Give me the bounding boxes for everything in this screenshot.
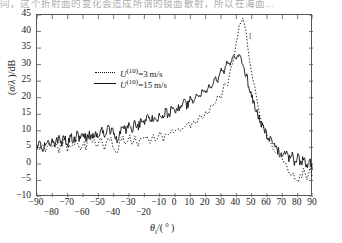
legend-label-u15: U(10)=15 m/s <box>120 78 167 90</box>
x-tick-label: −30 <box>121 198 136 208</box>
y-tick-label: 30 <box>22 59 32 69</box>
y-axis-tick-labels: −10−5051015202530354045 <box>0 14 36 196</box>
y-tick-label: 0 <box>26 158 31 168</box>
y-tick-label: 5 <box>26 142 31 152</box>
y-tick-label: 10 <box>22 125 32 135</box>
x-axis-tick-labels: −90−80−70−60−50−40−30−20−100102030405060… <box>36 197 312 223</box>
x-tick-label: 20 <box>200 198 210 208</box>
y-tick-label: 45 <box>22 9 32 19</box>
legend-swatch-solid-icon <box>94 79 116 88</box>
y-tick-label: −5 <box>21 175 31 185</box>
series-line-dotted <box>37 18 312 182</box>
x-tick-label: 10 <box>185 198 195 208</box>
y-tick-label: 35 <box>22 42 32 52</box>
y-tick-label: 25 <box>22 75 32 85</box>
chart-canvas <box>37 15 313 197</box>
x-tick-label: 60 <box>261 198 271 208</box>
x-tick-label: 40 <box>231 198 241 208</box>
x-tick-label: 80 <box>292 198 302 208</box>
x-tick-label: −80 <box>44 208 59 218</box>
x-axis-title: θi/( ° ) <box>150 222 230 236</box>
y-tick-label: 15 <box>22 109 32 119</box>
x-tick-label: 30 <box>215 198 225 208</box>
x-tick-label: 0 <box>172 198 177 208</box>
y-axis-ticks <box>37 15 313 197</box>
x-tick-label: 90 <box>307 198 317 208</box>
chart-page: 同，这个折射面的变化会造成所谓的镜面散射，所以在海面… (σ/λ )/dB −1… <box>0 0 342 243</box>
x-tick-label: −50 <box>90 198 105 208</box>
legend-item-u3: U(10)=3 m/s <box>94 67 204 78</box>
legend-item-u15: U(10)=15 m/s <box>94 78 204 89</box>
x-tick-label: −20 <box>136 208 151 218</box>
x-axis-ticks <box>37 15 313 197</box>
chart-legend: U(10)=3 m/s U(10)=15 m/s <box>94 67 204 89</box>
y-tick-label: 20 <box>22 92 32 102</box>
plot-area: 1 U(10)=3 m/s U(10)=15 m/s <box>36 14 312 196</box>
y-tick-label: 40 <box>22 26 32 36</box>
x-tick-label: −40 <box>105 208 120 218</box>
x-tick-label: −70 <box>59 198 74 208</box>
x-tick-label: −10 <box>151 198 166 208</box>
legend-swatch-dotted-icon <box>94 68 116 77</box>
x-tick-label: −60 <box>75 208 90 218</box>
x-tick-label: −90 <box>29 198 44 208</box>
x-tick-label: 70 <box>277 198 287 208</box>
peak-annotation: 1 <box>248 32 252 41</box>
x-tick-label: 50 <box>246 198 256 208</box>
top-caption-text: 同，这个折射面的变化会造成所谓的镜面散射，所以在海面… <box>0 0 342 8</box>
